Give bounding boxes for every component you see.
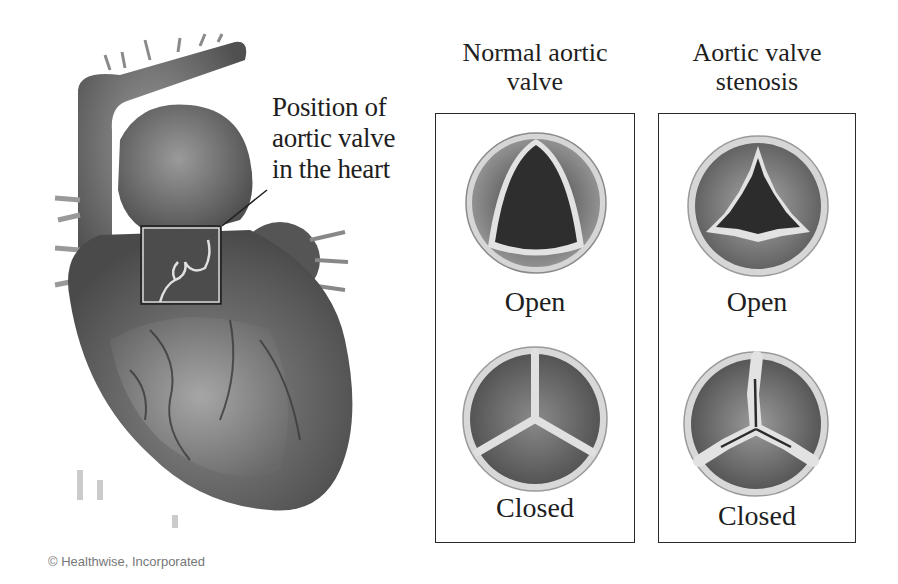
stenosis-title-line-1: Aortic valve <box>658 38 856 67</box>
normal-valve-open-illustration <box>462 129 610 277</box>
stenosis-open-label: Open <box>659 286 855 318</box>
copyright-notice: © Healthwise, Incorporated <box>48 554 205 569</box>
stenosis-closed-label: Closed <box>659 500 855 532</box>
normal-valve-panel: Open Closed <box>435 113 635 543</box>
stenosis-valve-closed-illustration <box>681 349 831 499</box>
aorta <box>118 104 252 240</box>
stenosis-valve-open-illustration <box>684 132 832 280</box>
valve-position-box <box>141 226 221 304</box>
normal-open-label: Open <box>436 286 634 318</box>
stenosis-title-line-2: stenosis <box>658 67 856 96</box>
heart-illustration <box>0 0 430 560</box>
callout-line-3: in the heart <box>272 154 395 185</box>
stenosis-panel: Open Closed <box>658 113 856 543</box>
normal-valve-closed-illustration <box>460 344 610 494</box>
callout-line-2: aortic valve <box>272 123 395 154</box>
normal-valve-title: Normal aortic valve <box>435 38 635 96</box>
normal-title-line-1: Normal aortic <box>435 38 635 67</box>
normal-title-line-2: valve <box>435 67 635 96</box>
stenosis-title: Aortic valve stenosis <box>658 38 856 96</box>
normal-closed-label: Closed <box>436 492 634 524</box>
callout-label: Position of aortic valve in the heart <box>272 92 395 185</box>
callout-line-1: Position of <box>272 92 395 123</box>
